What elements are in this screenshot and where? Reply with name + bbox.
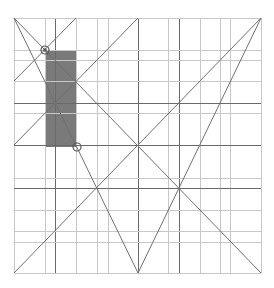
start-marker-dot-icon <box>43 48 47 52</box>
highlight-rectangle <box>45 50 76 147</box>
highlight-rectangle-layer <box>45 50 76 147</box>
diagram-canvas <box>0 0 274 288</box>
construction-grid-diagram <box>0 0 274 288</box>
